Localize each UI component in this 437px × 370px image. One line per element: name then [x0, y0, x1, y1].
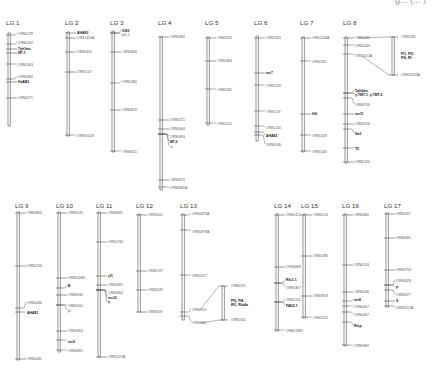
marker-label: ORS0844: [170, 35, 185, 39]
marker-label: Tph1ms: [18, 47, 31, 51]
linkage-group-lg7: LG 7ORS1250AORS0331fh5ORS0328ORS0140: [300, 19, 330, 154]
inset-trait-label: Pl1, Pl2,: [401, 52, 414, 56]
linkage-group-title: LG 16: [342, 202, 359, 209]
marker-label: ORS0747: [148, 269, 163, 273]
marker-label: ms11: [355, 112, 364, 116]
inset-bar: [222, 286, 224, 320]
marker-label: ms10: [108, 296, 117, 300]
chromosome-bar: [386, 213, 388, 307]
cropped-figure-title: g... (... ): [395, 0, 426, 5]
marker-label: T: [108, 301, 111, 305]
marker-label: ORS0307: [286, 286, 301, 290]
linkage-group-lg5: LG 5ORS0315ORS0484ORS0582ORS1120: [205, 19, 232, 126]
marker-connector: [117, 30, 121, 33]
linkage-group-title: LG 17: [384, 202, 401, 209]
marker: Tph1ms: [6, 47, 31, 51]
marker: Rfo1-1: [274, 278, 297, 283]
inset-top-label: ORS0191: [231, 284, 246, 288]
marker-connector: [103, 290, 107, 302]
marker-connector: [281, 283, 285, 287]
inset-lg13-inset: ORS0191ORS0561Pl5, Pl8,Rf1, Rfo4a: [200, 284, 248, 323]
marker-label: ORS0930: [68, 293, 83, 297]
chromosome-bar: [138, 214, 140, 312]
marker-label: ORS01380: [286, 329, 303, 333]
linkage-group-lg11: LG 11ORS0831ORS0733yf1ORS0499ORS0664ms10…: [96, 202, 126, 359]
linkage-group-title: LG 2: [65, 19, 79, 26]
marker-label: ORS0140: [312, 150, 327, 154]
marker: ms11: [343, 112, 364, 116]
marker: ms8: [342, 298, 361, 302]
inset-bottom-label: ORS01152A: [401, 73, 421, 77]
marker-connector: [22, 302, 26, 308]
marker-label: ORS1229: [266, 84, 281, 88]
linkage-group-lg13: LG 13ORS0873AORS0878AORS0317ORS0191ORS05…: [180, 202, 210, 325]
marker-connector: [261, 132, 265, 135]
linkage-group-title: LG 12: [136, 202, 153, 209]
marker-label: ORS1150: [286, 298, 301, 302]
linkage-group-lg3: LG 3Ol93pt5.1ORS0408ORS1380ORS0629ORS062…: [110, 19, 137, 154]
marker-connector: [281, 299, 285, 302]
marker-label: ORS0191: [192, 308, 207, 312]
marker-label: fh5: [312, 112, 317, 116]
marker-connector: [187, 316, 191, 322]
marker-label: ORS0677: [396, 293, 411, 297]
chromosome-bar: [112, 31, 114, 152]
linkage-insets: ORS0185ORS01152APl1, Pl2,Pl6, RlORS0191O…: [200, 35, 421, 323]
marker-label: ORS0733: [108, 240, 123, 244]
marker-label: ORS1064: [170, 127, 185, 131]
marker-connector: [350, 93, 354, 94]
marker-connector: [117, 81, 121, 83]
marker: ORS0878A: [180, 230, 210, 234]
marker-label: ORS0858: [313, 294, 328, 298]
marker: ORS1250A: [300, 36, 330, 40]
marker-label: ORS0840: [354, 213, 369, 217]
marker-label: HaAB3: [18, 80, 29, 84]
marker-label: ORS0607: [354, 305, 369, 309]
marker: pt5.1: [110, 33, 130, 37]
linkage-group-lg9: LG 9ORS0803ORS0256ORS0444AHAS1ORS0442: [15, 202, 42, 361]
marker-label: ORS1152A: [355, 54, 373, 58]
marker-label: ORS0328: [312, 134, 327, 138]
marker-label: ORS0256: [27, 264, 42, 268]
marker-label: ORS0320: [355, 160, 370, 164]
linkage-group-title: LG 7: [300, 19, 314, 26]
marker-label: ORS1411A: [77, 36, 95, 40]
marker-label: ORS0271: [18, 96, 33, 100]
linkage-group-lg2: LG 2AHAS3ORS1411AORS0405ORS1147ORS01028: [65, 19, 95, 138]
marker-connector: [350, 90, 354, 93]
marker-label: ORS0502: [68, 304, 83, 308]
marker-label: ORS1147A: [108, 355, 126, 359]
marker-label: ORS0637: [148, 310, 163, 314]
chromosome-bar: [17, 212, 19, 360]
marker-label: AHAS3: [266, 134, 278, 138]
marker-label: ORS0065: [396, 236, 411, 240]
marker-label: ORS0444: [27, 301, 42, 305]
marker-label: T5: [355, 147, 359, 151]
marker-label: ORS0284: [313, 254, 328, 258]
marker-connector: [63, 305, 67, 310]
marker-connector: [349, 322, 353, 325]
marker-label: AHAS1: [27, 311, 39, 315]
marker-label: ORS0408: [122, 50, 137, 54]
inset-connector-bottom: [362, 56, 389, 75]
marker: Sa3: [343, 129, 361, 136]
marker-connector: [350, 98, 354, 104]
linkage-group-title: LG 15: [301, 202, 318, 209]
marker-label: P: [396, 286, 399, 290]
marker-connector: [281, 279, 285, 283]
marker: HaAB3: [6, 80, 29, 84]
marker-connector: [350, 129, 354, 133]
marker-label: ORS1043: [355, 44, 370, 48]
marker-label: ORS1380: [122, 80, 137, 84]
marker-label: ORS01028: [77, 134, 94, 138]
linkage-group-title: LG 14: [274, 202, 291, 209]
marker: T5: [343, 147, 359, 151]
marker: ms9: [56, 340, 75, 344]
marker-label: ORS0878A: [192, 230, 210, 234]
inset-connector-top: [200, 286, 219, 310]
linkage-map-diagram: g... (... ) LG 1ORS0228ORS0202Tph1msMT-1…: [0, 0, 437, 370]
marker-label: ORS0803: [170, 135, 185, 139]
marker-connector: [391, 306, 395, 307]
linkage-group-lg10: LG 10ORS0145ORS01086BORS0930ORS0502plORS…: [56, 202, 85, 353]
marker-label: ORS0681A: [170, 186, 188, 190]
